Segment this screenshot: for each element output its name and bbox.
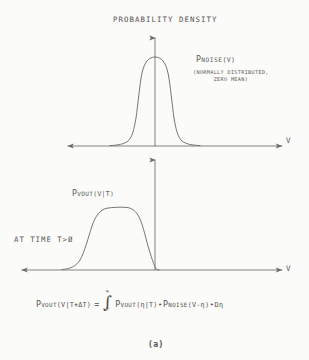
noise-distribution-note: (NORMALLY DISTRIBUTED,ZERO MEAN): [193, 69, 269, 84]
equation-lhs-subscript: VOUT: [41, 302, 57, 308]
bottom-chart-time-note: AT TIME T>Ø: [14, 236, 73, 245]
vout-label-subscript: VOUT: [77, 190, 93, 197]
vout-curve-label: PVOUT(V|T): [72, 189, 114, 198]
equation-lhs-argument: (V|T+ΔT): [57, 301, 91, 309]
noise-curve-label: PNOISE(V): [196, 55, 235, 65]
vout-label-argument: (V|T): [93, 190, 114, 198]
figure-caption: (a): [148, 340, 164, 349]
noise-label-argument: (V): [222, 56, 235, 64]
bottom-chart-x-axis-label: V: [286, 265, 291, 274]
noise-note-line-1: (NORMALLY DISTRIBUTED,: [193, 69, 269, 75]
integral-sign-group: ∞∫-∞: [102, 298, 115, 308]
integral-lower-limit: -∞: [102, 305, 109, 311]
top-chart-x-axis-label: V: [286, 137, 291, 146]
equation-differential: Dη: [215, 301, 224, 309]
noise-label-subscript: NOISE: [201, 56, 222, 63]
equation-term1-argument: (η|T): [136, 301, 157, 309]
convolution-equation: PVOUT(V|T+ΔT)=∞∫-∞PVOUT(η|T)•PNOISE(V-η)…: [36, 298, 223, 310]
equation-equals-sign: =: [91, 299, 102, 309]
equation-term2-argument: (V-η): [188, 301, 209, 309]
figure-container: PROBABILITY DENSITY PNOISE(V) (NORMALLY …: [0, 0, 309, 360]
noise-note-line-2: ZERO MEAN): [214, 76, 248, 82]
vout-plateau-curve: [62, 207, 159, 270]
equation-term1-subscript: VOUT: [121, 302, 137, 308]
top-chart-axis-title: PROBABILITY DENSITY: [113, 16, 218, 25]
equation-term2-subscript: NOISE: [168, 302, 187, 308]
